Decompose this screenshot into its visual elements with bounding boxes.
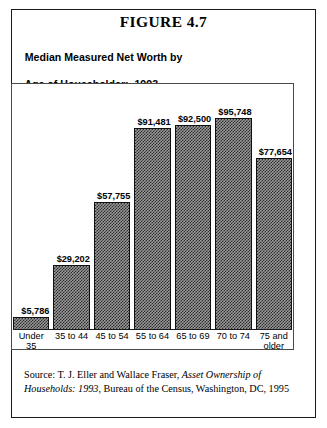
bar-value-label: $5,786 bbox=[21, 306, 49, 316]
bar-value-label: $91,481 bbox=[137, 117, 170, 127]
bar-group: $95,748 bbox=[215, 102, 251, 330]
source-suffix: , Bureau of the Census, Washington, DC, … bbox=[98, 383, 289, 394]
bar bbox=[215, 118, 251, 330]
bar-value-label: $92,500 bbox=[178, 114, 211, 124]
x-axis-category-labels: Under 3535 to 4445 to 5455 to 6465 to 69… bbox=[13, 330, 292, 349]
bar-group: $5,786 bbox=[13, 102, 49, 330]
figure-caption: FIGURE 4.7 bbox=[0, 13, 327, 31]
bar-value-label: $29,202 bbox=[57, 254, 90, 264]
bar-value-label: $95,748 bbox=[218, 107, 251, 117]
bar bbox=[256, 158, 292, 330]
bar-group: $92,500 bbox=[175, 102, 211, 330]
bar-value-label: $57,755 bbox=[97, 191, 130, 201]
bar-value-label: $77,654 bbox=[259, 147, 292, 157]
bar bbox=[53, 265, 89, 330]
figure-root: FIGURE 4.7 Median Measured Net Worth by … bbox=[0, 0, 327, 428]
x-axis-label: 70 to 74 bbox=[215, 330, 251, 349]
x-axis-label: Under 35 bbox=[13, 330, 49, 349]
source-prefix: Source: T. J. Eller and Wallace Fraser, bbox=[24, 369, 182, 380]
x-axis-label: 65 to 69 bbox=[175, 330, 211, 349]
bar-group: $91,481 bbox=[134, 102, 170, 330]
chart-title-line-1: Median Measured Net Worth by bbox=[25, 51, 183, 63]
bar-series: $5,786$29,202$57,755$91,481$92,500$95,74… bbox=[13, 102, 292, 330]
bar bbox=[134, 128, 170, 331]
source-note: Source: T. J. Eller and Wallace Fraser, … bbox=[24, 368, 296, 395]
chart-plot-area: $5,786$29,202$57,755$91,481$92,500$95,74… bbox=[12, 84, 293, 349]
bar bbox=[175, 125, 211, 330]
bar-group: $77,654 bbox=[256, 102, 292, 330]
x-axis-label: 45 to 54 bbox=[94, 330, 130, 349]
x-axis-label: 75 and older bbox=[256, 330, 292, 349]
x-axis-label: 55 to 64 bbox=[134, 330, 170, 349]
bar-group: $29,202 bbox=[53, 102, 89, 330]
bar-group: $57,755 bbox=[94, 102, 130, 330]
x-axis-label: 35 to 44 bbox=[53, 330, 89, 349]
chart-plot-frame: $5,786$29,202$57,755$91,481$92,500$95,74… bbox=[11, 83, 294, 350]
bar bbox=[94, 202, 130, 330]
